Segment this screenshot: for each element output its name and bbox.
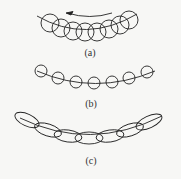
figure: (a) (b) (c) — [0, 0, 181, 179]
ellipse-c-1 — [13, 109, 42, 131]
ellipse-c-2 — [33, 120, 63, 140]
panel-c — [13, 109, 165, 144]
circle-a-1 — [41, 14, 59, 32]
rotation-arrow — [67, 13, 112, 17]
circle-a-5 — [88, 23, 106, 41]
circle-b-7 — [141, 66, 153, 78]
circle-a-6 — [100, 20, 118, 38]
ellipse-c-5 — [95, 128, 124, 144]
label-a: (a) — [84, 47, 95, 58]
label-c: (c) — [85, 155, 96, 166]
diagram-svg — [0, 0, 181, 179]
label-b: (b) — [85, 98, 97, 109]
circle-b-1 — [35, 65, 47, 77]
circle-a-4 — [76, 23, 94, 41]
panel-a — [37, 11, 138, 41]
panel-b — [35, 65, 155, 89]
